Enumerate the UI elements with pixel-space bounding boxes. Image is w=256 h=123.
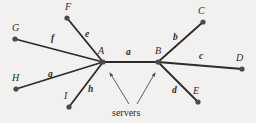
- node-E: [195, 99, 200, 104]
- node-label-G: G: [12, 23, 19, 33]
- edge-label-h: h: [88, 85, 93, 95]
- edge-d: [158, 62, 198, 102]
- edge-b: [158, 22, 203, 62]
- graph-canvas: [0, 0, 256, 123]
- edge-label-e: e: [85, 30, 89, 40]
- node-label-I: I: [64, 91, 67, 101]
- node-C: [200, 19, 205, 24]
- node-B: [155, 59, 160, 64]
- node-label-H: H: [12, 73, 19, 83]
- edge-h: [69, 62, 103, 107]
- edge-label-d: d: [172, 86, 177, 96]
- annotation-arrows-layer: [110, 73, 155, 104]
- node-label-D: D: [236, 53, 243, 63]
- node-F: [64, 15, 69, 20]
- node-label-C: C: [198, 6, 205, 16]
- network-diagram-figure: ABCDEFGHIabcdefghservers: [0, 0, 256, 123]
- arrow-to-a: [110, 73, 129, 104]
- arrow-to-b: [137, 73, 155, 104]
- edge-label-c: c: [199, 52, 203, 62]
- edge-label-g: g: [48, 70, 53, 80]
- node-D: [239, 66, 244, 71]
- node-G: [12, 36, 17, 41]
- edge-label-b: b: [173, 33, 178, 43]
- edge-f: [15, 39, 103, 62]
- edge-label-f: f: [51, 34, 54, 44]
- node-I: [66, 104, 71, 109]
- servers-annotation-label: servers: [112, 108, 140, 118]
- node-label-A: A: [98, 46, 104, 56]
- edge-c: [158, 62, 242, 69]
- node-label-F: F: [65, 2, 71, 12]
- node-A: [100, 59, 105, 64]
- node-H: [13, 86, 18, 91]
- edges-layer: [15, 18, 242, 107]
- edge-label-a: a: [126, 48, 131, 58]
- node-label-B: B: [155, 46, 161, 56]
- node-label-E: E: [193, 86, 199, 96]
